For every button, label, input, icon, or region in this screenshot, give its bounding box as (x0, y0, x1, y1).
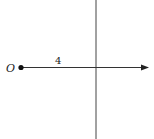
segment-length-label: 4 (55, 55, 61, 66)
arrow-head-icon (141, 65, 149, 71)
origin-label: O (6, 62, 15, 75)
origin-point (18, 65, 23, 70)
geometry-diagram: O 4 (0, 0, 154, 139)
